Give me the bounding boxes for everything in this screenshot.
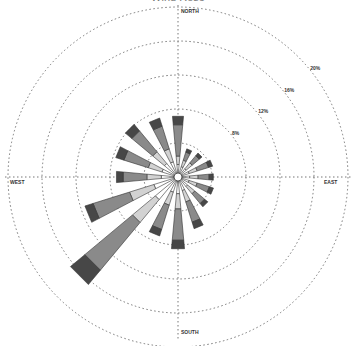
wedge-sw-bin3: [85, 215, 140, 270]
wedge-n-bin4: [172, 116, 183, 124]
ring-label: 12%: [258, 108, 269, 114]
wedge-nnw-bin2: [164, 149, 173, 163]
direction-wedges: [70, 116, 213, 284]
wedge-w-bin4: [116, 171, 123, 182]
wedge-wsw-bin2: [130, 185, 156, 201]
wedge-n-bin1: [177, 165, 179, 173]
wedge-ssw-bin2: [164, 191, 173, 205]
wedge-s-bin4: [171, 240, 184, 248]
north-label: NORTH: [181, 8, 199, 14]
wedge-sse-bin2: [182, 190, 190, 202]
wedge-sse-bin3: [186, 200, 200, 222]
east-label: EAST: [324, 179, 337, 185]
wedge-nnw-bin3: [153, 126, 169, 151]
south-label: SOUTH: [181, 329, 199, 335]
wedge-s-bin1: [176, 181, 179, 194]
center-calm-circle: [174, 173, 182, 181]
wedge-e-bin3: [198, 174, 209, 180]
wedge-wnw-bin3: [124, 151, 151, 168]
ring-label: 16%: [284, 87, 295, 93]
wind-rose-chart: NORTH SOUTH WEST EAST 8%12%16%20%: [0, 0, 356, 346]
wedge-n-bin2: [176, 156, 180, 164]
wedge-s-bin2: [175, 194, 181, 209]
wedge-s-bin3: [172, 209, 184, 240]
ring-label: 8%: [232, 130, 240, 136]
wedge-w-bin2: [147, 174, 161, 180]
wedge-e-bin4: [209, 174, 213, 180]
wedge-ese-bin3: [196, 183, 210, 192]
wedge-ssw-bin3: [152, 203, 169, 229]
wedge-w-bin3: [123, 172, 147, 182]
wedge-e-bin1: [182, 176, 190, 178]
wedge-wsw-bin3: [93, 192, 133, 218]
ring-label: 20%: [310, 65, 321, 71]
wedge-e-bin2: [190, 175, 198, 179]
wedge-n-bin3: [173, 125, 183, 156]
wedge-wnw-bin2: [148, 162, 163, 172]
wedge-w-bin1: [161, 175, 174, 178]
west-label: WEST: [10, 179, 24, 185]
